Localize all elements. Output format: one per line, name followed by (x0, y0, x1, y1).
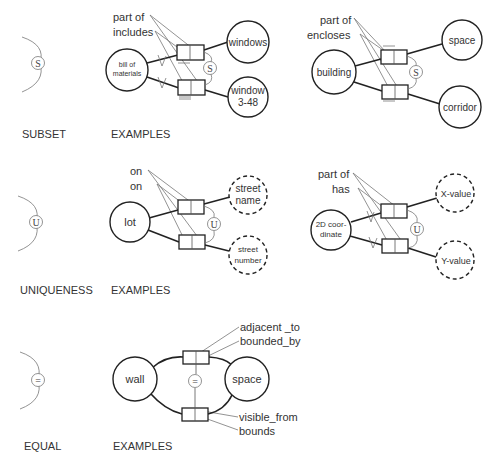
legend-subset: S SUBSET (22, 37, 66, 140)
uniqueness-caption: UNIQUENESS (20, 284, 93, 296)
entity-label: wall (125, 373, 145, 385)
example-wall-space: adjacent _to bounded_by visible_from bou… (113, 321, 301, 437)
entity-label: space (232, 373, 261, 385)
examples-caption: EXAMPLES (111, 128, 170, 140)
entity-label: street (235, 183, 260, 194)
equal-caption: EQUAL (24, 440, 61, 452)
entity-label: materials (113, 70, 142, 77)
entity-label: Y-value (441, 256, 471, 266)
example-bill-of-materials: part of includes S bill of materials win… (106, 11, 269, 117)
entity-label: 3-48 (238, 97, 258, 108)
constraint-symbol: U (210, 219, 218, 230)
predicate-label: bounds (239, 425, 276, 437)
example-lot: on on U lot street name street number (110, 165, 267, 274)
predicate-label: includes (113, 26, 154, 38)
example-2d-coordinate: part of has U 2D coor- dinate X-value Y-… (311, 168, 474, 279)
predicate-label: bounded_by (240, 335, 301, 347)
entity-label: lot (124, 216, 136, 228)
entity-label: corridor (443, 102, 478, 113)
entity-label: window (230, 85, 265, 96)
constraint-symbol: S (207, 63, 213, 74)
predicate-label: encloses (307, 29, 351, 41)
entity-label: building (317, 67, 351, 78)
entity-label: bill of (119, 61, 135, 68)
entity-label: space (449, 35, 476, 46)
constraint-diagram: S SUBSET part of includes S bill of mate… (0, 0, 490, 467)
predicate-label: visible_from (239, 411, 298, 423)
legend-equal: = EQUAL (20, 352, 61, 452)
entity-label: name (235, 195, 260, 206)
predicate-label: on (130, 180, 142, 192)
predicate-label: has (332, 183, 350, 195)
example-building: part of encloses S building space corrid… (307, 14, 482, 128)
constraint-symbol: U (413, 224, 421, 235)
constraint-symbol: S (413, 67, 419, 78)
examples-caption: EXAMPLES (111, 284, 170, 296)
predicate-label: part of (320, 14, 352, 26)
entity-street-number (229, 236, 267, 274)
predicate-label: part of (113, 11, 145, 23)
predicate-label: part of (318, 168, 350, 180)
entity-label: dinate (320, 230, 342, 239)
predicate-label: on (130, 165, 142, 177)
entity-label: street (238, 245, 259, 254)
predicate-label: adjacent _to (240, 321, 300, 333)
constraint-symbol: = (192, 376, 198, 387)
entity-label: X-value (441, 189, 472, 199)
uniqueness-symbol: U (32, 217, 40, 228)
examples-caption: EXAMPLES (113, 440, 172, 452)
entity-label: windows (228, 37, 267, 48)
subset-caption: SUBSET (22, 128, 66, 140)
equal-symbol: = (35, 375, 41, 386)
entity-label: number (234, 256, 261, 265)
subset-symbol: S (35, 58, 41, 69)
entity-label: 2D coor- (316, 220, 347, 229)
legend-uniqueness: U UNIQUENESS (18, 196, 93, 296)
